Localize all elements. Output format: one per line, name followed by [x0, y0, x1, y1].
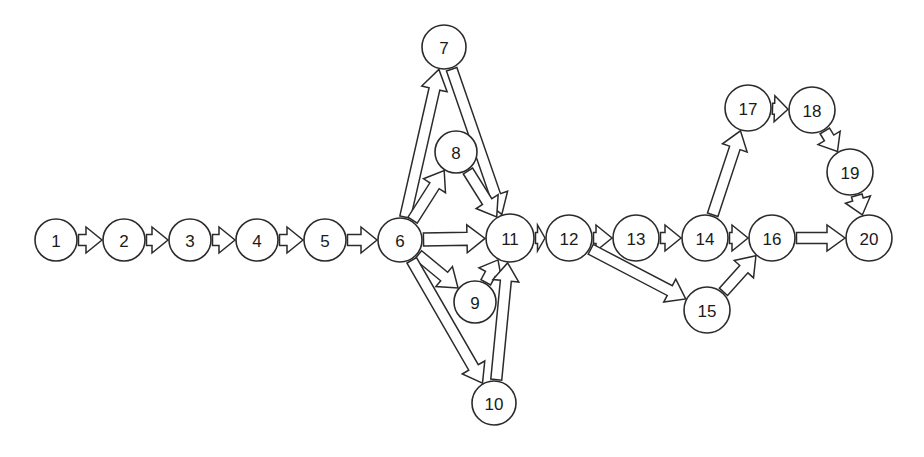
graph-node-2[interactable]: 2 [103, 219, 145, 261]
graph-node-20[interactable]: 20 [846, 215, 892, 261]
edge-arrow-4-to-5 [280, 227, 304, 253]
graph-node-5[interactable]: 5 [304, 219, 346, 261]
node-label-8: 8 [451, 144, 460, 163]
node-label-9: 9 [470, 294, 479, 313]
graph-node-13[interactable]: 13 [613, 215, 659, 261]
graph-node-17[interactable]: 17 [725, 85, 771, 131]
node-label-3: 3 [185, 232, 194, 251]
node-label-14: 14 [696, 230, 715, 249]
graph-node-18[interactable]: 18 [789, 87, 835, 133]
graph-node-19[interactable]: 19 [827, 149, 873, 195]
node-label-6: 6 [395, 232, 404, 251]
edge-arrow-14-to-17 [707, 131, 747, 217]
edge-arrow-3-to-4 [213, 227, 236, 253]
edge-arrow-2-to-3 [147, 227, 169, 253]
graph-node-8[interactable]: 8 [435, 131, 477, 173]
graph-node-12[interactable]: 12 [546, 215, 592, 261]
edge-arrow-10-to-11 [491, 263, 519, 380]
edge-arrow-11-to-12 [536, 225, 546, 251]
edge-arrow-14-to-16 [730, 225, 749, 251]
graph-node-1[interactable]: 1 [35, 219, 77, 261]
edge-arrow-17-to-18 [772, 96, 788, 122]
graph-node-7[interactable]: 7 [422, 25, 466, 69]
node-label-1: 1 [51, 232, 60, 251]
edge-arrow-16-to-20 [797, 225, 846, 251]
graph-node-9[interactable]: 9 [454, 281, 496, 323]
edge-arrow-15-to-16 [719, 256, 756, 296]
directed-graph: 1234567891011121314151617181920 [0, 0, 924, 457]
graph-node-15[interactable]: 15 [684, 287, 730, 333]
node-label-16: 16 [763, 230, 782, 249]
edge-arrow-1-to-2 [79, 227, 103, 253]
edge-arrow-13-to-14 [661, 225, 682, 251]
graph-node-4[interactable]: 4 [236, 219, 278, 261]
node-label-19: 19 [841, 164, 860, 183]
node-label-15: 15 [698, 302, 717, 321]
graph-node-16[interactable]: 16 [749, 215, 795, 261]
node-label-13: 13 [627, 230, 646, 249]
graph-node-6[interactable]: 6 [378, 218, 422, 262]
node-label-17: 17 [739, 100, 758, 119]
node-label-18: 18 [803, 102, 822, 121]
node-label-5: 5 [320, 232, 329, 251]
node-label-2: 2 [119, 232, 128, 251]
node-label-12: 12 [560, 230, 579, 249]
node-label-4: 4 [252, 232, 261, 251]
edge-arrow-6-to-11 [423, 225, 485, 253]
node-label-7: 7 [439, 39, 448, 58]
node-label-20: 20 [860, 230, 879, 249]
diagram-canvas: 1234567891011121314151617181920 [0, 0, 924, 457]
node-label-11: 11 [501, 230, 519, 249]
edge-arrow-5-to-6 [348, 227, 378, 253]
edge-arrow-19-to-20 [845, 194, 870, 215]
graph-node-10[interactable]: 10 [472, 381, 516, 425]
graph-node-14[interactable]: 14 [682, 215, 728, 261]
graph-node-3[interactable]: 3 [169, 219, 211, 261]
graph-node-11[interactable]: 11 [486, 214, 534, 262]
node-label-10: 10 [485, 395, 504, 414]
